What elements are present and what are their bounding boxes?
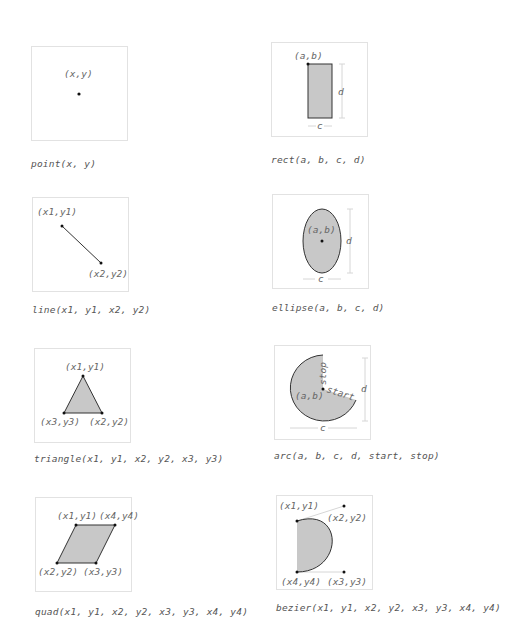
arc-height-label: d	[361, 383, 367, 394]
ellipse-height-label: d	[346, 235, 352, 246]
bezier-figure: (x1,y1) (x2,y2) (x4,y4) (x3,y3)	[277, 496, 374, 591]
arc-diagram: stop start (a,b) d c	[274, 345, 371, 440]
quad-p2-label: (x2,y2)	[38, 566, 78, 577]
arc-center-label: (a,b)	[295, 390, 324, 401]
bezier-p4-dot-icon	[296, 571, 299, 574]
arc-caption: arc(a, b, c, d, start, stop)	[274, 450, 440, 461]
triangle-p2-label: (x2,y2)	[89, 416, 129, 427]
bezier-p3-dot-icon	[343, 571, 346, 574]
rect-shape	[308, 64, 332, 118]
point-diagram: (x,y)	[31, 46, 128, 141]
quad-p1-label: (x1,y1)	[57, 510, 97, 521]
rect-diagram: (a,b) d c	[271, 42, 368, 137]
bezier-diagram: (x1,y1) (x2,y2) (x4,y4) (x3,y3)	[276, 495, 373, 590]
quad-p3-label: (x3,y3)	[83, 566, 123, 577]
quad-p4-label: (x4,y4)	[99, 510, 139, 521]
triangle-p1-label: (x1,y1)	[65, 361, 105, 372]
arc-width-label: c	[320, 422, 326, 433]
quad-p1-dot-icon	[75, 524, 78, 527]
ellipse-figure: (a,b) d c	[273, 195, 370, 290]
quad-p2-dot-icon	[56, 562, 59, 565]
point-dot-icon	[77, 92, 80, 95]
line-shape	[62, 226, 101, 263]
rect-corner-dot-icon	[307, 63, 310, 66]
point-figure: (x,y)	[32, 47, 129, 142]
quad-shape	[57, 525, 115, 563]
triangle-shape	[64, 376, 102, 413]
triangle-figure: (x1,y1) (x3,y3) (x2,y2)	[35, 349, 132, 444]
ellipse-diagram: (a,b) d c	[272, 194, 369, 289]
line-caption: line(x1, y1, x2, y2)	[32, 304, 150, 315]
rect-width-label: c	[317, 120, 323, 131]
point-caption: point(x, y)	[31, 158, 96, 169]
quad-p3-dot-icon	[95, 562, 98, 565]
point-label: (x,y)	[64, 68, 93, 79]
quad-figure: (x1,y1) (x4,y4) (x2,y2) (x3,y3)	[36, 498, 133, 593]
rect-caption: rect(a, b, c, d)	[271, 154, 366, 165]
line-p1-label: (x1,y1)	[37, 206, 77, 217]
bezier-p2-dot-icon	[343, 505, 346, 508]
bezier-p4-label: (x4,y4)	[281, 576, 321, 587]
bezier-p2-label: (x2,y2)	[327, 512, 367, 523]
bezier-p1-label: (x1,y1)	[279, 500, 319, 511]
quad-p4-dot-icon	[114, 524, 117, 527]
bezier-p1-dot-icon	[296, 520, 299, 523]
ellipse-width-label: c	[318, 273, 324, 284]
bezier-fill	[297, 519, 332, 572]
bezier-caption: bezier(x1, y1, x2, y2, x3, y3, x4, y4)	[276, 602, 501, 613]
triangle-p3-dot-icon	[63, 412, 66, 415]
triangle-caption: triangle(x1, y1, x2, y2, x3, y3)	[34, 453, 223, 464]
triangle-diagram: (x1,y1) (x3,y3) (x2,y2)	[34, 348, 131, 443]
line-p2-label: (x2,y2)	[88, 268, 128, 279]
ellipse-center-label: (a,b)	[307, 224, 336, 235]
line-p1-dot-icon	[61, 225, 64, 228]
triangle-p2-dot-icon	[101, 412, 104, 415]
quad-caption: quad(x1, y1, x2, y2, x3, y3, x4, y4)	[35, 606, 248, 617]
ellipse-center-dot-icon	[321, 240, 324, 243]
rect-corner-label: (a,b)	[294, 50, 323, 61]
line-diagram: (x1,y1) (x2,y2)	[32, 197, 129, 292]
line-figure: (x1,y1) (x2,y2)	[33, 198, 130, 293]
arc-stop-label: stop	[317, 362, 328, 385]
arc-figure: stop start (a,b) d c	[275, 346, 372, 441]
quad-diagram: (x1,y1) (x4,y4) (x2,y2) (x3,y3)	[35, 497, 132, 592]
rect-figure: (a,b) d c	[272, 43, 369, 138]
triangle-p1-dot-icon	[82, 375, 85, 378]
triangle-p3-label: (x3,y3)	[40, 416, 80, 427]
ellipse-caption: ellipse(a, b, c, d)	[272, 302, 384, 313]
line-p2-dot-icon	[100, 262, 103, 265]
rect-height-label: d	[338, 86, 344, 97]
bezier-p3-label: (x3,y3)	[327, 576, 367, 587]
